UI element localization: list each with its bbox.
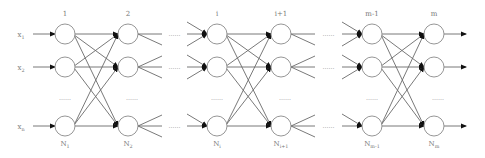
connection-line bbox=[227, 35, 272, 67]
connection-line bbox=[382, 35, 425, 67]
connection-line bbox=[291, 67, 315, 78]
connection-line bbox=[227, 34, 272, 124]
layer-index-label: i+1 bbox=[275, 10, 288, 18]
layer-size-label: N2 bbox=[123, 140, 132, 149]
neuron-node bbox=[118, 57, 138, 77]
horizontal-ellipsis: …… bbox=[323, 30, 335, 37]
neuron-node bbox=[207, 116, 227, 136]
connection-line bbox=[342, 22, 362, 34]
layer-index-label: m bbox=[431, 10, 438, 18]
neuron-node bbox=[118, 24, 138, 44]
layer-size-label: Ni+1 bbox=[274, 140, 289, 149]
connection-line bbox=[138, 34, 162, 45]
connection-line bbox=[342, 34, 362, 46]
neuron-node bbox=[55, 57, 75, 77]
connection-line bbox=[291, 115, 315, 126]
connection-line bbox=[382, 69, 425, 126]
connection-line bbox=[75, 36, 119, 126]
layer-size-label: Ni bbox=[213, 140, 221, 149]
connection-line bbox=[138, 67, 162, 78]
neuron-node bbox=[55, 24, 75, 44]
connection-line bbox=[291, 126, 315, 137]
connection-line bbox=[75, 35, 119, 67]
connection-line bbox=[187, 67, 207, 79]
vertical-ellipsis: …… bbox=[432, 94, 444, 101]
vertical-ellipsis: …… bbox=[59, 94, 71, 101]
connection-line bbox=[75, 34, 119, 124]
connection-line bbox=[187, 34, 207, 46]
connection-line bbox=[342, 67, 362, 79]
vertical-ellipsis: …… bbox=[366, 94, 378, 101]
layer-size-label: Nm-1 bbox=[364, 140, 380, 149]
connection-line bbox=[227, 69, 272, 126]
layer-index-label: i bbox=[216, 10, 219, 18]
horizontal-ellipsis: …… bbox=[169, 30, 181, 37]
connection-line bbox=[227, 36, 272, 126]
connection-lines bbox=[33, 22, 466, 137]
neuron-node bbox=[271, 24, 291, 44]
connection-line bbox=[291, 56, 315, 67]
neuron-node bbox=[362, 116, 382, 136]
layer-size-label: Nm bbox=[429, 140, 440, 149]
connection-line bbox=[342, 114, 362, 126]
connection-line bbox=[138, 56, 162, 67]
network-canvas: x1x2xn……………………………………1N1……2N2……iNi……i+1Ni… bbox=[0, 0, 485, 158]
horizontal-ellipsis: …… bbox=[323, 63, 335, 70]
connection-line bbox=[187, 22, 207, 34]
input-label-3: xn bbox=[17, 123, 25, 132]
layer-size-label: N1 bbox=[60, 140, 69, 149]
connection-line bbox=[138, 115, 162, 126]
horizontal-ellipsis: …… bbox=[169, 63, 181, 70]
layer-index-label: 1 bbox=[63, 10, 67, 18]
neuron-node bbox=[362, 57, 382, 77]
vertical-ellipsis: …… bbox=[126, 94, 138, 101]
neuron-node bbox=[55, 116, 75, 136]
neuron-node bbox=[271, 116, 291, 136]
input-label-1: x1 bbox=[17, 31, 24, 40]
neuron-node bbox=[424, 116, 444, 136]
neuron-node bbox=[207, 57, 227, 77]
connection-line bbox=[138, 126, 162, 137]
connection-line bbox=[227, 67, 272, 124]
neuron-node bbox=[424, 57, 444, 77]
neuron-node bbox=[424, 24, 444, 44]
connection-line bbox=[75, 69, 119, 126]
neuron-node bbox=[118, 116, 138, 136]
vertical-ellipsis: …… bbox=[211, 94, 223, 101]
layer-index-label: 2 bbox=[126, 10, 130, 18]
neuron-node bbox=[271, 57, 291, 77]
connection-line bbox=[382, 34, 425, 124]
connection-line bbox=[187, 114, 207, 126]
layer-index-label: m-1 bbox=[365, 10, 378, 18]
input-label-2: x2 bbox=[17, 64, 24, 73]
vertical-ellipsis: …… bbox=[279, 94, 291, 101]
connection-line bbox=[382, 67, 425, 124]
neuron-node bbox=[362, 24, 382, 44]
connection-line bbox=[75, 67, 119, 124]
connection-line bbox=[342, 55, 362, 67]
horizontal-ellipsis: …… bbox=[169, 122, 181, 129]
neural-network-diagram: x1x2xn……………………………………1N1……2N2……iNi……i+1Ni… bbox=[0, 0, 485, 158]
connection-line bbox=[187, 55, 207, 67]
neuron-node bbox=[207, 24, 227, 44]
connection-line bbox=[291, 34, 315, 45]
horizontal-ellipsis: …… bbox=[323, 122, 335, 129]
